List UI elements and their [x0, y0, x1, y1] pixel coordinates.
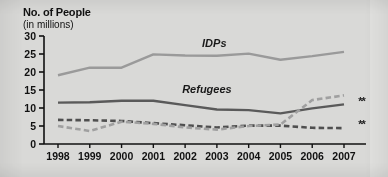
chart-subtitle: (in millions): [23, 19, 74, 30]
chart-figure: No. of People (in millions) 051015202530…: [0, 0, 388, 177]
x-tick-label: 2007: [324, 150, 364, 162]
y-tick-label: 10: [16, 102, 36, 114]
y-tick-label: 0: [16, 138, 36, 150]
footnote-marker-refugees: **: [358, 95, 365, 107]
footnote-marker-dashed: **: [358, 118, 365, 130]
y-tick-label: 20: [16, 66, 36, 78]
y-tick-label: 15: [16, 84, 36, 96]
y-tick-label: 5: [16, 120, 36, 132]
series-label-refugees: Refugees: [182, 83, 232, 95]
y-tick-label: 30: [16, 30, 36, 42]
series-label-idps: IDPs: [202, 37, 226, 49]
series-line-0: [58, 52, 344, 75]
chart-title: No. of People: [23, 6, 91, 18]
y-tick-label: 25: [16, 48, 36, 60]
plot-area: 051015202530 199819992000200120022003200…: [44, 36, 366, 144]
series-line-1: [58, 101, 344, 114]
page-right-margin: [370, 0, 388, 177]
